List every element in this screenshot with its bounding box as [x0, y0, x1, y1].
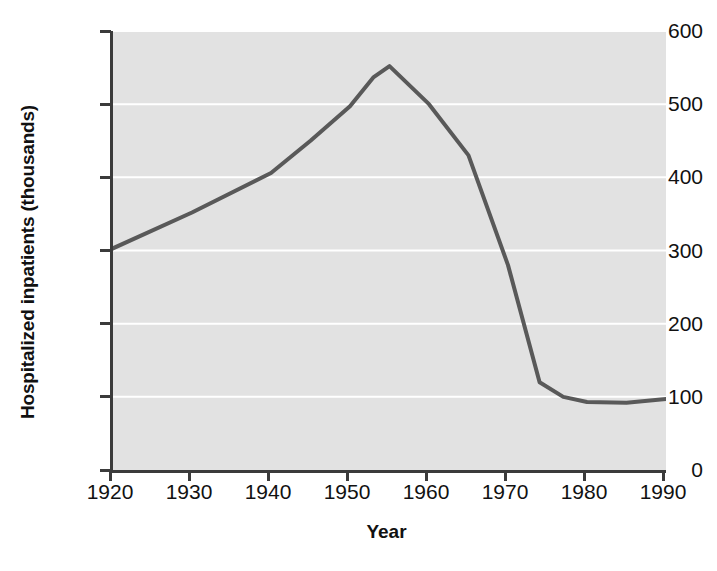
chart-figure: Hospitalized inpatients (thousands) 0100… — [0, 0, 717, 571]
x-tick-label: 1950 — [302, 481, 392, 502]
y-axis-title: Hospitalized inpatients (thousands) — [15, 22, 41, 502]
plot-area — [110, 31, 666, 473]
data-line-0 — [113, 66, 666, 403]
y-tick-label: 400 — [617, 166, 717, 187]
y-tick-label: 300 — [617, 240, 717, 261]
y-tick-mark — [100, 395, 111, 398]
y-tick-mark — [100, 249, 111, 252]
x-tick-label: 1970 — [460, 481, 550, 502]
x-tick-label: 1990 — [618, 481, 708, 502]
x-tick-label: 1960 — [381, 481, 471, 502]
data-series-group — [113, 66, 666, 403]
x-tick-label: 1930 — [144, 481, 234, 502]
x-tick-label: 1980 — [539, 481, 629, 502]
y-tick-mark — [100, 322, 111, 325]
y-tick-label: 200 — [617, 313, 717, 334]
y-tick-label: 500 — [617, 93, 717, 114]
x-tick-label: 1920 — [65, 481, 155, 502]
y-tick-mark — [100, 30, 111, 33]
y-tick-label: 100 — [617, 386, 717, 407]
y-tick-mark — [100, 103, 111, 106]
y-tick-label: 0 — [617, 459, 717, 480]
y-tick-label: 600 — [617, 20, 717, 41]
x-axis-title: Year — [110, 521, 663, 543]
plot-svg — [113, 31, 666, 470]
x-tick-label: 1940 — [223, 481, 313, 502]
y-tick-mark — [100, 176, 111, 179]
gridlines — [113, 31, 666, 397]
